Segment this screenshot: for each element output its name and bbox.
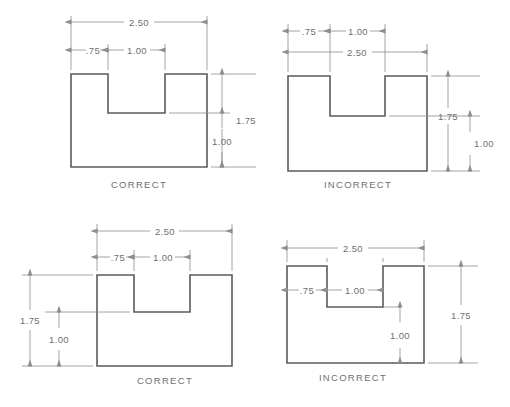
dimension-value-overall-width: 2.50 bbox=[347, 47, 367, 58]
dimension-value-left-step: .75 bbox=[86, 45, 100, 56]
dimension-value-left-step: .75 bbox=[111, 252, 125, 263]
dimension-value-overall-width: 2.50 bbox=[155, 226, 175, 237]
dimension-value-overall-width: 2.50 bbox=[343, 243, 363, 254]
dimension-value-notch-depth: 1.00 bbox=[49, 334, 69, 345]
dimension-value-notch-depth: 1.00 bbox=[212, 136, 232, 147]
dimension-value-notch-depth: 1.00 bbox=[390, 330, 410, 341]
figure-bottom-right: 2.50 .75 1.00 1.00 1.75 INCORRECT bbox=[287, 240, 478, 383]
part-outline-top-left bbox=[71, 74, 207, 167]
figure-caption-top-right: INCORRECT bbox=[324, 179, 392, 190]
dimension-value-notch-width: 1.00 bbox=[153, 252, 173, 263]
technical-drawing-canvas: 2.50 .75 1.00 1.75 1.00 CORRECT bbox=[0, 0, 510, 407]
figure-caption-bottom-right: INCORRECT bbox=[319, 372, 387, 383]
dimension-value-notch-depth: 1.00 bbox=[474, 138, 494, 149]
dimension-value-notch-width: 1.00 bbox=[127, 45, 147, 56]
dimension-value-overall-height: 1.75 bbox=[438, 111, 458, 122]
part-outline-top-right bbox=[288, 76, 427, 171]
figure-bottom-left: 2.50 .75 1.00 1.75 1.00 CORRECT bbox=[20, 224, 232, 386]
dimension-value-overall-height: 1.75 bbox=[20, 315, 40, 326]
figure-caption-top-left: CORRECT bbox=[111, 179, 167, 190]
drawing-sheet: 2.50 .75 1.00 1.75 1.00 CORRECT bbox=[0, 0, 510, 407]
dimension-value-notch-width: 1.00 bbox=[345, 285, 365, 296]
dimension-value-overall-height: 1.75 bbox=[236, 115, 256, 126]
dimension-value-left-step: .75 bbox=[302, 26, 316, 37]
dimension-value-left-step: .75 bbox=[300, 285, 314, 296]
dimension-value-overall-width: 2.50 bbox=[129, 17, 149, 28]
dimension-value-notch-width: 1.00 bbox=[348, 26, 368, 37]
figure-caption-bottom-left: CORRECT bbox=[137, 375, 193, 386]
figure-top-left: 2.50 .75 1.00 1.75 1.00 CORRECT bbox=[71, 16, 256, 190]
part-outline-bottom-right bbox=[287, 266, 424, 363]
part-outline-bottom-left bbox=[97, 275, 232, 366]
figure-top-right: .75 1.00 2.50 1.75 1.00 INCORRECT bbox=[288, 24, 494, 190]
dimension-value-overall-height: 1.75 bbox=[451, 310, 471, 321]
